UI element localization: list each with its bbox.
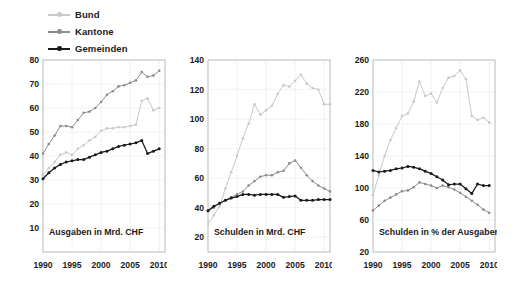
series-marker-kantone xyxy=(77,119,80,122)
series-marker-bund xyxy=(294,79,297,82)
series-marker-bund xyxy=(53,161,56,164)
series-marker-gemeinden xyxy=(140,139,143,142)
series-marker-kantone xyxy=(42,152,45,155)
series-marker-bund xyxy=(311,87,314,90)
series-marker-kantone xyxy=(265,174,268,177)
y-axis-tick-label: 20 xyxy=(194,232,204,242)
series-marker-bund xyxy=(441,87,444,90)
series-marker-gemeinden xyxy=(158,147,161,150)
series-marker-kantone xyxy=(305,174,308,177)
series-marker-gemeinden xyxy=(389,169,392,172)
series-marker-gemeinden xyxy=(253,194,256,197)
x-axis-tick-label: 2000 xyxy=(92,260,111,270)
series-marker-kantone xyxy=(82,112,85,115)
series-marker-bund xyxy=(88,139,91,142)
series-marker-kantone xyxy=(247,184,250,187)
chart-svg: 2040608010012014019901995200020052010Sch… xyxy=(187,57,332,285)
series-marker-kantone xyxy=(476,204,479,207)
series-marker-bund xyxy=(389,139,392,142)
y-axis-tick-label: 140 xyxy=(355,151,370,161)
series-marker-bund xyxy=(129,125,132,128)
series-marker-kantone xyxy=(242,190,245,193)
series-marker-kantone xyxy=(465,196,468,199)
series-marker-bund xyxy=(265,109,268,112)
series-marker-bund xyxy=(401,115,404,118)
series-marker-gemeinden xyxy=(377,171,380,174)
chart-caption: Schulden in Mrd. CHF xyxy=(214,227,306,237)
series-marker-bund xyxy=(77,148,80,151)
series-marker-gemeinden xyxy=(123,144,126,147)
y-axis-tick-label: 100 xyxy=(190,114,205,124)
series-marker-bund xyxy=(317,88,320,91)
series-marker-kantone xyxy=(418,181,421,184)
line-marker-icon xyxy=(48,27,70,36)
series-marker-gemeinden xyxy=(88,156,91,159)
series-marker-gemeinden xyxy=(288,195,291,198)
y-axis-tick-label: 80 xyxy=(194,144,204,154)
legend-dot-bund xyxy=(57,12,62,17)
series-marker-kantone xyxy=(488,212,491,215)
y-axis-tick-label: 60 xyxy=(359,215,369,225)
series-marker-gemeinden xyxy=(329,198,332,201)
x-axis-tick-label: 1990 xyxy=(198,260,217,270)
series-marker-gemeinden xyxy=(412,166,415,169)
series-marker-bund xyxy=(117,126,120,129)
series-marker-kantone xyxy=(129,82,132,85)
legend-item-bund: Bund xyxy=(48,8,128,21)
series-marker-bund xyxy=(447,76,450,79)
series-marker-kantone xyxy=(71,126,74,129)
y-axis-tick-label: 60 xyxy=(29,103,39,113)
series-marker-kantone xyxy=(401,190,404,193)
series-marker-gemeinden xyxy=(47,171,50,174)
series-marker-bund xyxy=(424,95,427,98)
series-marker-kantone xyxy=(453,188,456,191)
line-marker-icon xyxy=(48,10,70,19)
series-marker-gemeinden xyxy=(372,169,375,172)
series-marker-bund xyxy=(82,144,85,147)
series-marker-kantone xyxy=(53,134,56,137)
x-axis-tick-label: 2005 xyxy=(286,260,305,270)
chart-panel-ausgaben: 102030405060708019901995200020052010Ausg… xyxy=(22,57,167,285)
y-axis-tick-label: 220 xyxy=(355,87,370,97)
series-marker-kantone xyxy=(106,94,109,97)
series-marker-bund xyxy=(383,155,386,158)
series-marker-kantone xyxy=(59,125,62,128)
legend-label-kantone: Kantone xyxy=(75,26,114,37)
series-marker-kantone xyxy=(441,184,444,187)
series-marker-gemeinden xyxy=(100,151,103,154)
x-axis-tick-label: 1990 xyxy=(363,260,382,270)
series-marker-bund xyxy=(146,97,149,100)
series-marker-gemeinden xyxy=(207,209,210,212)
series-marker-gemeinden xyxy=(53,167,56,170)
series-marker-gemeinden xyxy=(447,183,450,186)
series-marker-gemeinden xyxy=(82,158,85,161)
chart-legend: Bund Kantone Gemeinden xyxy=(48,8,128,55)
series-marker-bund xyxy=(111,127,114,130)
series-marker-bund xyxy=(418,80,421,83)
legend-item-gemeinden: Gemeinden xyxy=(48,42,128,55)
series-marker-kantone xyxy=(282,169,285,172)
y-axis-tick-label: 30 xyxy=(29,175,39,185)
series-marker-gemeinden xyxy=(476,183,479,186)
series-marker-bund xyxy=(218,205,221,208)
series-marker-gemeinden xyxy=(230,197,233,200)
series-marker-bund xyxy=(276,93,279,96)
series-marker-gemeinden xyxy=(276,193,279,196)
series-marker-kantone xyxy=(436,187,439,190)
y-axis-tick-label: 40 xyxy=(194,203,204,213)
x-axis-tick-label: 2005 xyxy=(451,260,470,270)
y-axis-tick-label: 60 xyxy=(194,173,204,183)
series-marker-bund xyxy=(152,109,155,112)
series-marker-kantone xyxy=(311,180,314,183)
series-marker-bund xyxy=(48,167,51,170)
series-marker-bund xyxy=(94,136,97,139)
chart-svg: 206010014018022026019901995200020052010S… xyxy=(352,57,497,285)
series-marker-gemeinden xyxy=(294,194,297,197)
series-marker-bund xyxy=(42,174,45,177)
legend-dot-gemeinden xyxy=(57,46,62,51)
y-axis-tick-label: 260 xyxy=(355,57,370,65)
series-marker-gemeinden xyxy=(317,198,320,201)
series-marker-gemeinden xyxy=(265,193,268,196)
series-marker-gemeinden xyxy=(111,147,114,150)
series-marker-gemeinden xyxy=(311,199,314,202)
